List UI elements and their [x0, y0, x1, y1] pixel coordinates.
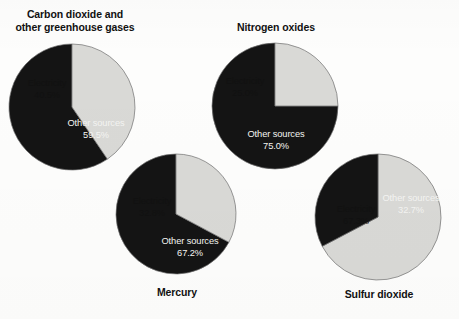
- slice-electricity[interactable]: [275, 43, 338, 106]
- slice-label-other-sources: Other sources 75.0%: [230, 129, 322, 152]
- chart-mercury: Electricity 32.8% Other sources 67.2% Me…: [114, 152, 240, 317]
- slice-label-other-sources: Other sources 59.5%: [52, 118, 140, 141]
- slice-label-electricity: Electricity 25.0%: [209, 76, 281, 99]
- chart-sulfur-dioxide: Electricity 67.3% Other sources 32.7% Su…: [313, 152, 445, 317]
- slice-label-electricity: Electricity 40.5%: [8, 78, 86, 101]
- chart-title-mercury: Mercury: [114, 286, 240, 299]
- slice-label-other-sources: Other sources 67.2%: [144, 236, 236, 259]
- emissions-pie-chart-figure: Carbon dioxide and other greenhouse gase…: [0, 0, 459, 319]
- chart-title-sulfur-dioxide: Sulfur dioxide: [313, 288, 445, 301]
- chart-title-nitrogen-oxides: Nitrogen oxides: [205, 21, 347, 34]
- slice-label-electricity: Electricity 32.8%: [116, 196, 188, 219]
- chart-title-carbon-dioxide: Carbon dioxide and other greenhouse gase…: [0, 8, 150, 34]
- slice-label-other-sources: Other sources 32.7%: [375, 193, 447, 216]
